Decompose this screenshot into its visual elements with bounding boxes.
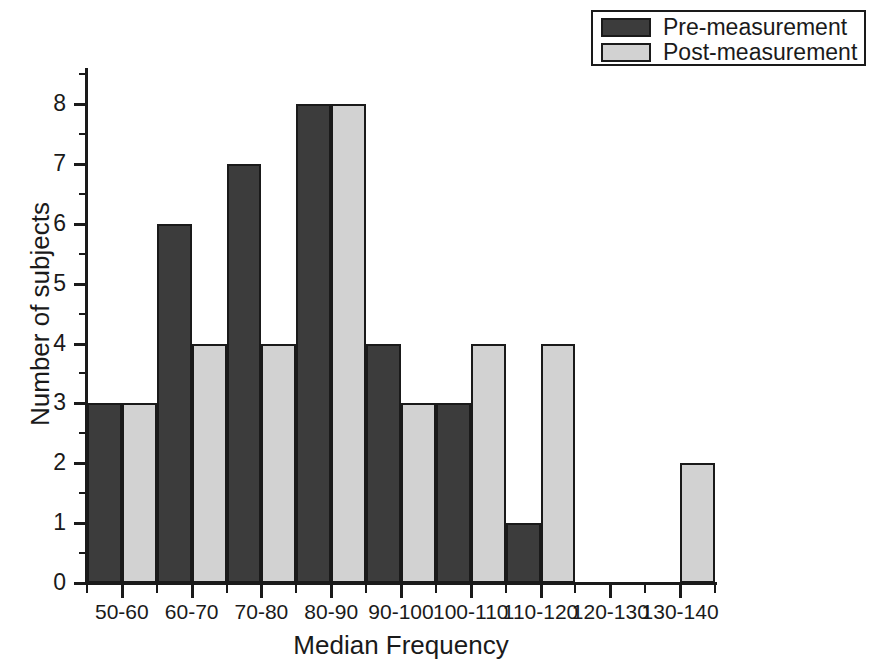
bar-130-140-post [680, 463, 715, 583]
bar-50-60-post [122, 403, 157, 583]
x-tick-minor [714, 585, 716, 593]
x-tick-major [540, 585, 543, 598]
y-tick-major [74, 283, 86, 286]
plot-area [87, 70, 715, 583]
y-tick-label: 2 [40, 451, 66, 474]
legend-swatch-post-icon [601, 43, 651, 62]
x-tick-minor [156, 585, 158, 593]
y-tick-label: 1 [40, 511, 66, 534]
legend-item-post: Post-measurement [601, 41, 856, 64]
legend-label-pre: Pre-measurement [663, 16, 847, 39]
x-tick-major [400, 585, 403, 598]
bar-100-110-post [471, 344, 506, 584]
y-tick-label: 8 [40, 92, 66, 115]
y-tick-label: 7 [40, 152, 66, 175]
y-tick-minor [79, 313, 86, 315]
y-tick-major [74, 582, 86, 585]
y-tick-label: 4 [40, 332, 66, 355]
bar-90-100-post [401, 403, 436, 583]
x-tick-minor [505, 585, 507, 593]
y-tick-major [74, 462, 86, 465]
legend-item-pre: Pre-measurement [601, 16, 856, 39]
y-tick-minor [79, 253, 86, 255]
y-tick-minor [79, 73, 86, 75]
y-tick-major [74, 103, 86, 106]
x-tick-minor [86, 585, 88, 593]
x-axis-title: Median Frequency [87, 631, 715, 659]
y-tick-major [74, 163, 86, 166]
x-tick-major [330, 585, 333, 598]
bar-90-100-pre [366, 344, 401, 584]
y-tick-minor [79, 552, 86, 554]
bar-60-70-pre [157, 224, 192, 583]
y-axis-title: Number of subjects [26, 164, 54, 464]
legend-label-post: Post-measurement [663, 41, 857, 64]
bar-100-110-pre [436, 403, 471, 583]
bar-60-70-post [192, 344, 227, 584]
bar-70-80-pre [227, 164, 262, 583]
y-tick-label: 6 [40, 212, 66, 235]
bar-70-80-post [261, 344, 296, 584]
y-tick-label: 5 [40, 272, 66, 295]
y-tick-minor [79, 492, 86, 494]
x-tick-major [470, 585, 473, 598]
x-tick-major [679, 585, 682, 598]
y-tick-minor [79, 372, 86, 374]
chart-figure: Number of subjects 012345678 50-6060-707… [0, 0, 892, 671]
y-tick-minor [79, 432, 86, 434]
y-tick-minor [79, 193, 86, 195]
legend-swatch-pre-icon [601, 18, 651, 37]
x-tick-major [121, 585, 124, 598]
y-tick-major [74, 223, 86, 226]
x-tick-minor [295, 585, 297, 593]
y-tick-major [74, 522, 86, 525]
x-tick-minor [226, 585, 228, 593]
x-tick-minor [365, 585, 367, 593]
y-tick-major [74, 343, 86, 346]
bar-110-120-pre [506, 523, 541, 583]
x-tick-major [191, 585, 194, 598]
y-tick-label: 3 [40, 391, 66, 414]
y-tick-minor [79, 133, 86, 135]
y-tick-label: 0 [40, 571, 66, 594]
y-tick-major [74, 402, 86, 405]
x-tick-label: 130-140 [620, 600, 740, 624]
bar-110-120-post [541, 344, 576, 584]
bar-80-90-pre [296, 104, 331, 583]
x-tick-major [260, 585, 263, 598]
bar-50-60-pre [87, 403, 122, 583]
x-tick-major [609, 585, 612, 598]
chart-legend: Pre-measurement Post-measurement [591, 10, 866, 66]
bar-80-90-post [331, 104, 366, 583]
x-tick-minor [435, 585, 437, 593]
x-tick-minor [574, 585, 576, 593]
x-tick-minor [644, 585, 646, 593]
